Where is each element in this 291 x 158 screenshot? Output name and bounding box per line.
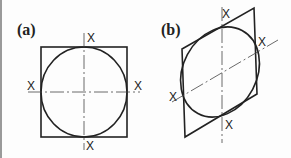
- x-mark-right: X: [258, 35, 266, 49]
- panel-b: (b) X X X X: [161, 7, 278, 143]
- x-mark-bottom: X: [225, 118, 233, 132]
- x-mark-left: X: [27, 79, 35, 93]
- inclined-center-line: [172, 40, 278, 102]
- panel-a-label: (a): [17, 21, 36, 39]
- panel-b-label: (b): [161, 21, 181, 39]
- x-mark-top: X: [87, 31, 95, 45]
- diagram-canvas: (a) X X X X (b) X X X X: [0, 0, 291, 158]
- x-mark-left: X: [169, 90, 177, 104]
- x-mark-right: X: [134, 79, 142, 93]
- x-mark-bottom: X: [86, 139, 94, 153]
- x-mark-top: X: [222, 7, 230, 21]
- ellipse: [165, 13, 274, 131]
- panel-a: (a) X X X X: [17, 21, 142, 153]
